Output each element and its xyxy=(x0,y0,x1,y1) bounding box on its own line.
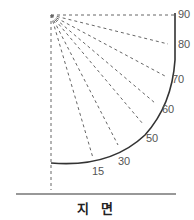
angle-label-60: 60 xyxy=(162,103,174,115)
angle-label-80: 80 xyxy=(178,38,190,50)
angle-label-90: 90 xyxy=(178,8,190,20)
angle-label-30: 30 xyxy=(118,155,130,167)
angle-label-50: 50 xyxy=(146,132,158,144)
angle-label-15: 15 xyxy=(92,165,104,177)
ground-label: 지 면 xyxy=(0,198,194,217)
angle-label-70: 70 xyxy=(172,73,184,85)
